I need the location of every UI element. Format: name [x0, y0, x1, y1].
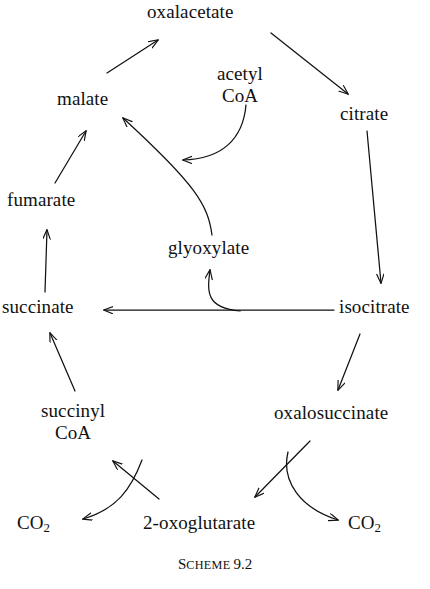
arrow-fumarate-to-malate — [55, 131, 86, 183]
node-co2-left: CO2 — [17, 513, 50, 535]
arrow-succinyl-coa-to-succinate — [50, 333, 75, 391]
scheme-caption-rest: CHEME — [186, 558, 230, 572]
arrow-glyoxylate-to-malate — [123, 118, 212, 235]
node-acetyl-coa-line1: acetyl — [217, 63, 263, 84]
node-citrate: citrate — [340, 104, 388, 125]
arrow-succinate-to-fumarate — [45, 230, 47, 292]
node-malate: malate — [57, 89, 108, 110]
node-co2-right: CO2 — [348, 513, 381, 535]
node-acetyl-coa-line2: CoA — [217, 85, 263, 107]
arrow-malate-to-oxalacetate — [107, 40, 158, 73]
scheme-diagram: oxalacetate malate acetyl CoA citrate fu… — [0, 0, 430, 589]
node-2-oxoglutarate: 2-oxoglutarate — [143, 513, 255, 534]
node-acetyl-coa: acetyl CoA — [217, 63, 263, 108]
node-glyoxylate: glyoxylate — [168, 238, 249, 259]
co2-right-subscript: 2 — [375, 520, 381, 535]
node-succinyl-coa-line2: CoA — [41, 422, 105, 444]
node-oxalacetate: oxalacetate — [147, 2, 234, 23]
arrow-citrate-to-isocitrate — [367, 131, 381, 283]
scheme-caption-number: 9.2 — [233, 556, 252, 572]
node-fumarate: fumarate — [7, 190, 75, 211]
arrow-oxoglutarate-to-succinyl-coa — [113, 461, 159, 499]
node-succinyl-coa-line1: succinyl — [41, 400, 105, 421]
arrow-oxalosuccinate-to-oxoglutarate — [255, 441, 310, 497]
arrow-oxalacetate-to-citrate — [271, 33, 348, 94]
arrow-isocitrate-to-oxalosuccinate — [338, 334, 360, 390]
scheme-caption: SCHEME9.2 — [0, 556, 430, 573]
node-succinate: succinate — [2, 297, 74, 318]
co2-right-formula: CO — [348, 512, 375, 533]
arrow-isocitrate-to-glyoxylate — [209, 270, 240, 311]
arrow-acetyl-coa-to-malate-branch — [183, 105, 246, 160]
arrow-oxoglutarate-to-co2-left — [83, 460, 142, 519]
scheme-caption-lead: S — [178, 556, 186, 572]
arrow-oxoglutarate-to-co2-right — [287, 452, 338, 520]
co2-left-formula: CO — [17, 512, 44, 533]
node-oxalosuccinate: oxalosuccinate — [274, 403, 388, 424]
node-isocitrate: isocitrate — [339, 297, 410, 318]
co2-left-subscript: 2 — [44, 520, 50, 535]
node-succinyl-coa: succinyl CoA — [41, 400, 105, 445]
